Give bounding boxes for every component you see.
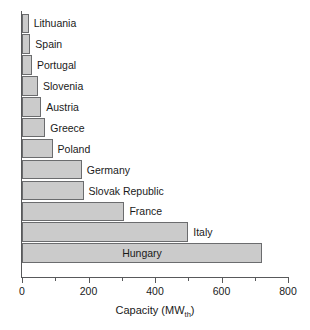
- bar-row: Slovenia: [22, 76, 288, 97]
- x-tick-label: 800: [279, 286, 297, 297]
- plot-area: LithuaniaSpainPortugalSloveniaAustriaGre…: [22, 13, 288, 277]
- x-tick-minor: [55, 277, 56, 281]
- bar-row: Portugal: [22, 55, 288, 76]
- bar-label-slovak-republic: Slovak Republic: [84, 185, 164, 196]
- bar-label-lithuania: Lithuania: [29, 18, 77, 29]
- x-tick-minor: [255, 277, 256, 281]
- bar-slovenia: [22, 76, 38, 96]
- bar-germany: [22, 160, 82, 180]
- x-tick-major: [89, 277, 90, 283]
- bar-label-germany: Germany: [82, 164, 130, 175]
- bar-row: Italy: [22, 222, 288, 243]
- bar-row: Poland: [22, 138, 288, 159]
- bar-label-austria: Austria: [41, 102, 79, 113]
- x-axis-title-main: Capacity (MW: [116, 304, 185, 316]
- bar-austria: [22, 97, 41, 117]
- bar-row: Germany: [22, 159, 288, 180]
- x-tick-label: 600: [213, 286, 231, 297]
- bar-row: Hungary: [22, 243, 288, 264]
- bar-row: Greece: [22, 117, 288, 138]
- bar-row: Lithuania: [22, 13, 288, 34]
- bar-italy: [22, 222, 188, 242]
- x-tick-major: [222, 277, 223, 283]
- x-axis-title: Capacity (MWth): [0, 305, 310, 319]
- bar-row: Slovak Republic: [22, 180, 288, 201]
- x-tick-label: 200: [80, 286, 98, 297]
- bar-france: [22, 202, 124, 222]
- bar-label-poland: Poland: [53, 144, 91, 155]
- bar-label-italy: Italy: [188, 227, 212, 238]
- bar-lithuania: [22, 14, 29, 34]
- bar-label-hungary: Hungary: [22, 248, 262, 259]
- bar-label-spain: Spain: [30, 39, 62, 50]
- x-tick-label: 400: [146, 286, 164, 297]
- bar-greece: [22, 118, 45, 138]
- x-tick-minor: [122, 277, 123, 281]
- x-tick-label: 0: [19, 286, 25, 297]
- bar-label-france: France: [124, 206, 162, 217]
- bar-slovak-republic: [22, 181, 84, 201]
- x-tick-major: [155, 277, 156, 283]
- x-tick-minor: [188, 277, 189, 281]
- bar-label-portugal: Portugal: [32, 60, 76, 71]
- bar-row: France: [22, 201, 288, 222]
- bar-row: Austria: [22, 97, 288, 118]
- bar-poland: [22, 139, 53, 159]
- x-tick-major: [288, 277, 289, 283]
- bar-chart: LithuaniaSpainPortugalSloveniaAustriaGre…: [0, 0, 310, 330]
- bar-label-greece: Greece: [45, 123, 84, 134]
- bar-portugal: [22, 55, 32, 75]
- x-tick-major: [22, 277, 23, 283]
- bar-label-slovenia: Slovenia: [38, 81, 83, 92]
- bar-spain: [22, 34, 30, 54]
- x-axis-title-suffix: ): [191, 304, 195, 316]
- bar-row: Spain: [22, 34, 288, 55]
